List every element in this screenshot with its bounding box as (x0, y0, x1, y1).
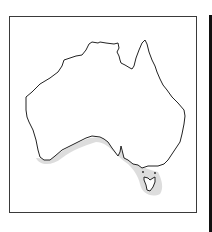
australia-distribution-map (0, 0, 212, 232)
island-dot (154, 172, 156, 174)
mainland-outline (26, 40, 185, 168)
island-dot (142, 171, 144, 173)
